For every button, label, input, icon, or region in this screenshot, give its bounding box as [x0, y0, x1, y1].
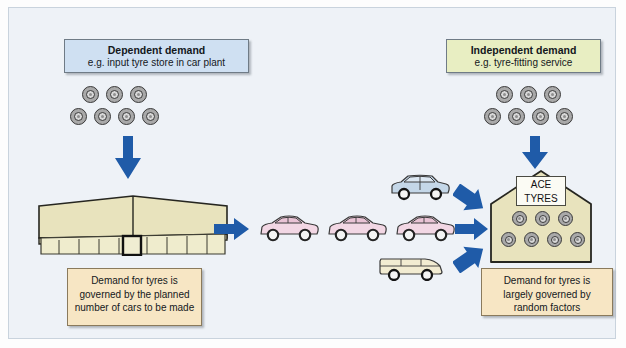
- tyre-icon: [142, 108, 159, 125]
- produced-car-1: [255, 213, 321, 247]
- arrow-factory-to-cars-icon: [214, 217, 250, 241]
- customer-van: [377, 251, 447, 285]
- right-note-box: Demand for tyres is largely governed by …: [481, 268, 613, 316]
- independent-demand-label-box: Independent demand e.g. tyre-fitting ser…: [446, 39, 601, 73]
- dependent-demand-label-box: Dependent demand e.g. input tyre store i…: [64, 39, 249, 73]
- diagram-panel: Dependent demand e.g. input tyre store i…: [8, 7, 616, 339]
- tyre-icon: [558, 211, 573, 226]
- tyre-icon: [535, 211, 550, 226]
- left-note-box: Demand for tyres is governed by the plan…: [67, 268, 202, 326]
- shop-tyre-rack: [500, 211, 586, 253]
- tyre-shop-building: ACE TYRES: [487, 168, 595, 264]
- tyre-icon: [570, 232, 585, 247]
- shop-sign-line-2: TYRES: [524, 193, 557, 204]
- tyre-icon: [547, 232, 562, 247]
- tyre-icon: [544, 86, 561, 103]
- tyre-icon: [70, 108, 87, 125]
- arrow-sedan-to-shop-icon: [453, 184, 487, 214]
- arrow-down-to-shop-stock-icon: [521, 136, 549, 170]
- tyre-icon: [556, 108, 573, 125]
- tyre-icon: [496, 86, 513, 103]
- arrow-down-to-factory-icon: [114, 136, 142, 180]
- tyre-icon: [82, 86, 99, 103]
- independent-demand-heading: Independent demand: [447, 44, 600, 57]
- tyre-icon: [508, 108, 525, 125]
- tyre-icon: [512, 211, 527, 226]
- dependent-demand-subtext: e.g. input tyre store in car plant: [65, 57, 248, 70]
- produced-car-3: [391, 213, 457, 247]
- shop-sign-line-1: ACE: [531, 179, 552, 190]
- independent-demand-subtext: e.g. tyre-fitting service: [447, 57, 600, 70]
- tyre-icon: [484, 108, 501, 125]
- diagram-canvas: Dependent demand e.g. input tyre store i…: [0, 0, 626, 348]
- tyre-icon: [520, 86, 537, 103]
- left-tyre-stack: [64, 86, 184, 130]
- tyre-icon: [106, 86, 123, 103]
- tyre-icon: [501, 232, 516, 247]
- produced-car-2: [323, 213, 389, 247]
- right-tyre-stack: [471, 86, 599, 130]
- customer-sedan: [387, 173, 453, 205]
- shop-sign: ACE TYRES: [516, 176, 566, 206]
- tyre-icon: [118, 108, 135, 125]
- tyre-icon: [130, 86, 147, 103]
- right-note-text: Demand for tyres is largely governed by …: [503, 275, 590, 313]
- tyre-icon: [94, 108, 111, 125]
- car-plant-building: [37, 194, 229, 256]
- tyre-icon: [532, 108, 549, 125]
- tyre-icon: [524, 232, 539, 247]
- left-note-text: Demand for tyres is governed by the plan…: [75, 275, 195, 313]
- dependent-demand-heading: Dependent demand: [65, 44, 248, 57]
- arrow-cars-to-shop-icon: [455, 217, 489, 241]
